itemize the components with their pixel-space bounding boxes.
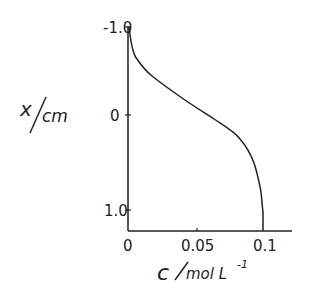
y-axis-label: x cm (19, 97, 68, 133)
concentration-curve (129, 27, 263, 231)
y-tick-label-mid: 0 (110, 107, 120, 125)
svg-text:mol L: mol L (186, 265, 227, 283)
chart: -1.0 0 1.0 0 0.05 0.1 x cm c mol L -1 (0, 0, 327, 295)
x-tick-label-0: 0 (123, 237, 133, 255)
svg-text:x: x (19, 97, 32, 121)
svg-text:cm: cm (42, 106, 68, 126)
x-tick-label-01: 0.1 (253, 237, 277, 255)
y-tick-label-bottom: 1.0 (104, 202, 128, 220)
x-axis-label: c mol L -1 (157, 258, 248, 285)
y-tick-label-top: -1.0 (103, 19, 132, 37)
svg-text:-1: -1 (237, 258, 248, 271)
svg-text:c: c (157, 260, 169, 285)
x-tick-label-005: 0.05 (181, 237, 214, 255)
